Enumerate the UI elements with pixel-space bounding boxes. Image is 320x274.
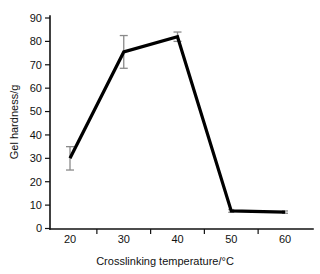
data-series-line (70, 37, 285, 212)
y-tick-label: 0 (36, 222, 42, 234)
error-bars-group (66, 32, 288, 213)
chart-figure: 0102030405060708090 Gel hardness/g 20304… (0, 0, 320, 274)
chart-plot-area: 0102030405060708090 Gel hardness/g 20304… (0, 0, 320, 274)
y-axis-title: Gel hardness/g (8, 85, 20, 160)
y-tick-label: 30 (30, 152, 42, 164)
x-tick-label: 30 (118, 233, 130, 245)
y-tick-label: 20 (30, 176, 42, 188)
x-axis-group: 2030405060 Crosslinking temperature/°C (50, 229, 313, 267)
y-tick-label: 40 (30, 129, 42, 141)
y-axis-tick-labels: 0102030405060708090 (30, 12, 42, 235)
y-tick-label: 70 (30, 59, 42, 71)
y-tick-label: 60 (30, 82, 42, 94)
x-tick-label: 50 (225, 233, 237, 245)
x-axis-tick-labels: 2030405060 (64, 233, 291, 245)
x-tick-label: 40 (171, 233, 183, 245)
y-tick-label: 10 (30, 199, 42, 211)
x-tick-label: 60 (279, 233, 291, 245)
y-tick-label: 80 (30, 35, 42, 47)
y-axis-group: 0102030405060708090 Gel hardness/g (8, 12, 50, 235)
x-axis-title: Crosslinking temperature/°C (96, 255, 234, 267)
y-tick-label: 50 (30, 105, 42, 117)
y-tick-label: 90 (30, 12, 42, 24)
x-tick-label: 20 (64, 233, 76, 245)
